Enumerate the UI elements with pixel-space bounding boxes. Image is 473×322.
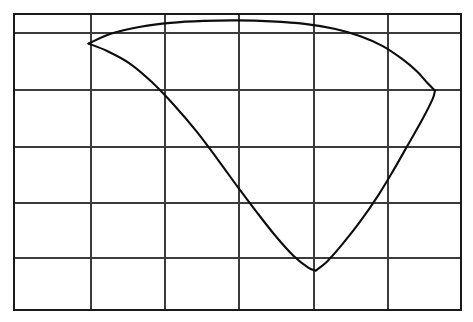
plot-canvas [0,0,473,322]
canvas-background [0,0,473,322]
figure-root [0,0,473,322]
